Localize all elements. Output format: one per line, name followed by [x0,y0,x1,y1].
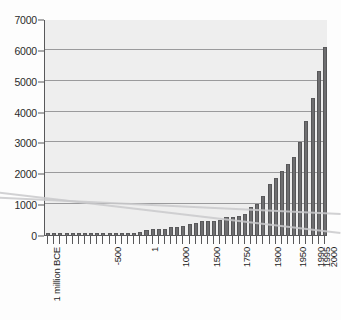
bar [132,233,136,236]
x-tick-mark [109,236,110,244]
x-tick-mark [53,236,54,244]
bar [95,233,99,236]
x-tick-mark [59,236,60,244]
x-tick-mark [182,236,183,244]
x-tick-mark [139,236,140,244]
x-tick-mark [232,236,233,244]
bar [268,184,272,235]
x-tick-label: 2000 [328,247,339,267]
bar [52,233,56,236]
bar [317,71,321,235]
x-tick-mark [256,236,257,244]
bar [108,233,112,236]
x-tick-mark [275,236,276,244]
x-tick-mark [207,236,208,244]
bar-series [45,20,327,235]
x-tick-mark [238,236,239,244]
bar [292,157,296,235]
x-tick-label: 1750 [241,247,252,267]
bar [89,233,93,236]
bar [77,233,81,236]
x-tick-mark [318,236,319,244]
bar [206,221,210,235]
x-tick-mark [152,236,153,244]
bar [71,233,75,236]
x-tick-label: 1 million BCE [51,247,62,301]
x-tick-mark [127,236,128,244]
x-tick-mark [244,236,245,244]
x-tick-mark [96,236,97,244]
bar [101,233,105,236]
bar [126,233,130,236]
y-tick-label: 2000 [14,168,37,180]
x-tick-mark [164,236,165,244]
bar [157,229,161,235]
x-tick-mark [170,236,171,244]
bar [194,223,198,235]
bar [311,98,315,235]
bar [280,171,284,235]
bar [138,232,142,235]
bar [255,204,259,235]
x-tick-mark [47,236,48,244]
y-tick-label: 1000 [14,199,37,211]
bar [114,233,118,236]
bar [120,233,124,236]
x-tick-mark [225,236,226,244]
x-tick-mark [195,236,196,244]
x-tick-label: 1500 [211,247,222,267]
x-tick-mark [115,236,116,244]
bar [237,216,241,235]
bar [58,233,62,236]
x-tick-mark [250,236,251,244]
x-tick-mark [102,236,103,244]
bar [304,121,308,235]
x-tick-mark [201,236,202,244]
bar [144,230,148,235]
x-tick-mark [146,236,147,244]
bar [261,196,265,235]
bar [243,214,247,235]
bar [274,178,278,235]
y-axis: 01000200030004000500060007000 [0,0,44,240]
bar [65,233,69,236]
x-tick-mark [90,236,91,244]
bar [212,221,216,235]
x-tick-mark [262,236,263,244]
x-axis: 1 million BCE-50011000150017501900195019… [44,236,327,320]
x-tick-label: 1900 [272,247,283,267]
bar [286,164,290,235]
y-tick-label: 0 [31,230,37,242]
x-tick-mark [213,236,214,244]
bar [181,226,185,235]
x-tick-mark [189,236,190,244]
y-tick-label: 6000 [14,45,37,57]
x-tick-mark [219,236,220,244]
x-tick-label: -500 [112,247,123,265]
bar [46,233,50,236]
bar [298,142,302,235]
bar [151,229,155,235]
x-tick-mark [72,236,73,244]
x-tick-mark [121,236,122,244]
bar [188,224,192,235]
x-tick-label: 1950 [297,247,308,267]
x-tick-mark [305,236,306,244]
x-tick-mark [66,236,67,244]
world-population-bar-chart: 01000200030004000500060007000 1 million … [0,0,341,320]
x-tick-mark [293,236,294,244]
bar [249,207,253,235]
x-tick-mark [133,236,134,244]
y-tick-label: 3000 [14,137,37,149]
bar [200,221,204,235]
y-tick-label: 7000 [14,14,37,26]
bar [175,227,179,235]
bar [218,220,222,235]
x-tick-mark [299,236,300,244]
x-tick-mark [84,236,85,244]
x-tick-mark [281,236,282,244]
bar [224,217,228,235]
x-tick-mark [324,236,325,244]
bar [83,233,87,236]
x-tick-mark [287,236,288,244]
